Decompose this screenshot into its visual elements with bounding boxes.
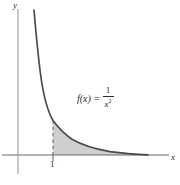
formula-denominator-exponent: 2 — [109, 98, 112, 104]
formula-equals-sign: = — [94, 94, 100, 104]
formula-left-hand-side: f(x) — [77, 94, 91, 104]
function-curve — [34, 10, 148, 155]
y-axis-label: y — [13, 1, 17, 10]
formula-fraction: 1 x2 — [103, 86, 114, 109]
x-tick-label-1: 1 — [50, 160, 55, 169]
formula-numerator: 1 — [104, 86, 113, 95]
formula-fraction-bar — [103, 96, 114, 97]
formula-denominator: x2 — [103, 98, 114, 109]
figure-container: y x 1 f(x) = 1 x2 — [0, 0, 180, 185]
x-axis-label: x — [171, 153, 175, 162]
function-formula-annotation: f(x) = 1 x2 — [77, 87, 114, 110]
